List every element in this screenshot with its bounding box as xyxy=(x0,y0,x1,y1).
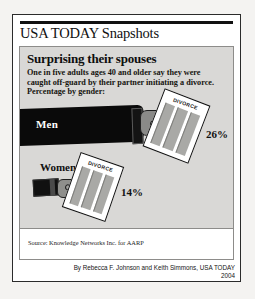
bar-label-men: Men xyxy=(36,118,58,130)
snapshot-page: USA TODAY Snapshots Surprising their spo… xyxy=(0,0,255,299)
byline-authors: By Rebecca F. Johnson and Keith Simmons,… xyxy=(60,264,235,271)
deck-line-1: One in five adults ages 40 and older say… xyxy=(27,68,227,78)
pictorial-chart: Men DIVORCE 26% Women DIVORCE xyxy=(20,99,233,229)
deck-line-2: caught off-guard by their partner initia… xyxy=(27,78,227,88)
snapshot-headline: Surprising their spouses xyxy=(27,51,156,67)
source-credit: Source: Knowledge Networks Inc. for AARP xyxy=(28,239,144,246)
divorce-document-men: DIVORCE xyxy=(143,88,211,163)
source-zone: Source: Knowledge Networks Inc. for AARP xyxy=(19,229,234,260)
document-lines-men xyxy=(150,103,200,156)
bar-women-cuff-icon xyxy=(50,179,56,196)
bar-label-women: Women xyxy=(40,161,76,173)
snapshot-deck: One in five adults ages 40 and older say… xyxy=(27,68,227,97)
value-label-women: 14% xyxy=(121,186,143,198)
masthead-brand: USA TODAY Snapshots xyxy=(20,24,233,43)
document-lines-women xyxy=(69,166,114,214)
deck-line-3: Percentage by gender: xyxy=(27,87,227,97)
snapshot-panel: Surprising their spouses One in five adu… xyxy=(19,46,234,229)
byline-year: 2004 xyxy=(60,272,235,279)
value-label-men: 26% xyxy=(206,128,228,140)
